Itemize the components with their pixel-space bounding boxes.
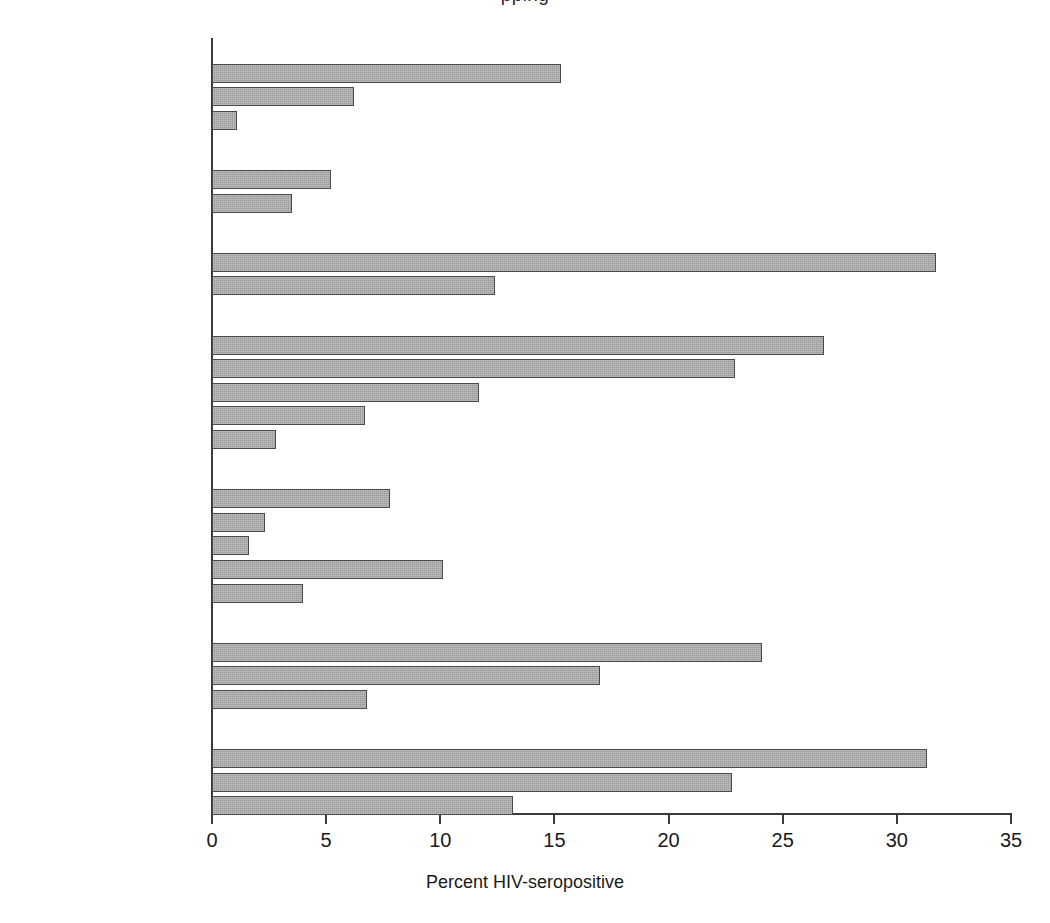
x-tick-30 xyxy=(896,813,898,824)
bar xyxy=(212,749,927,768)
bar xyxy=(212,64,561,83)
x-tick-label-15: 15 xyxy=(543,829,565,852)
chart-page: pping 05101520253035 BURUNDI 1991Bujumbu… xyxy=(0,0,1050,923)
bar xyxy=(212,194,292,213)
bar xyxy=(212,584,303,603)
x-tick-label-20: 20 xyxy=(657,829,679,852)
bar xyxy=(212,430,276,449)
x-tick-label-25: 25 xyxy=(772,829,794,852)
bar xyxy=(212,690,367,709)
bar xyxy=(212,560,443,579)
x-tick-label-30: 30 xyxy=(886,829,908,852)
bar xyxy=(212,536,249,555)
bar xyxy=(212,773,732,792)
bar xyxy=(212,253,936,272)
plot-area: 05101520253035 xyxy=(212,38,1011,813)
title-fragment: pping xyxy=(0,0,1050,6)
bar xyxy=(212,406,365,425)
x-tick-35 xyxy=(1010,813,1012,824)
bar xyxy=(212,383,479,402)
x-tick-label-5: 5 xyxy=(321,829,332,852)
bar xyxy=(212,666,600,685)
x-tick-label-35: 35 xyxy=(1000,829,1022,852)
bar xyxy=(212,643,762,662)
x-tick-15 xyxy=(553,813,555,824)
bar xyxy=(212,513,265,532)
bar xyxy=(212,359,735,378)
x-tick-label-10: 10 xyxy=(429,829,451,852)
x-axis-title: Percent HIV-seropositive xyxy=(0,872,1050,893)
bar xyxy=(212,111,237,130)
bar xyxy=(212,170,331,189)
x-tick-label-0: 0 xyxy=(206,829,217,852)
bar xyxy=(212,87,354,106)
bar xyxy=(212,276,495,295)
x-tick-25 xyxy=(782,813,784,824)
bar xyxy=(212,796,513,815)
bar xyxy=(212,336,824,355)
x-tick-20 xyxy=(668,813,670,824)
bar xyxy=(212,489,390,508)
